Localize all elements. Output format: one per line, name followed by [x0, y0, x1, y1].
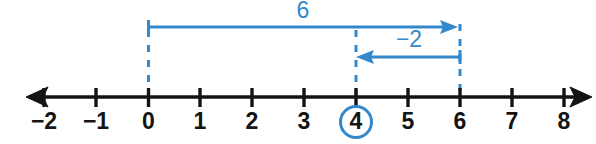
tick-label-5: 5 [402, 108, 415, 134]
tick-label-7: 7 [506, 108, 519, 134]
tick-label-1: 1 [194, 108, 207, 134]
tick-label-0: 0 [142, 108, 155, 134]
number-line-figure: 6 −2 [0, 0, 596, 144]
tick-label-2: 2 [246, 108, 259, 134]
tick-label--1: −1 [83, 108, 109, 134]
tick-label-8: 8 [558, 108, 571, 134]
tick-label-3: 3 [298, 108, 311, 134]
number-line-svg: 6 −2 [0, 0, 596, 144]
first-jump-label: 6 [297, 0, 310, 23]
tick-label-4: 4 [350, 108, 363, 134]
number-line-axis [26, 87, 592, 107]
axis-tick-labels: −2 −1 0 1 2 3 4 5 6 7 8 [31, 108, 571, 134]
tick-label--2: −2 [31, 108, 57, 134]
second-jump-label: −2 [396, 26, 422, 52]
tick-label-6: 6 [454, 108, 467, 134]
